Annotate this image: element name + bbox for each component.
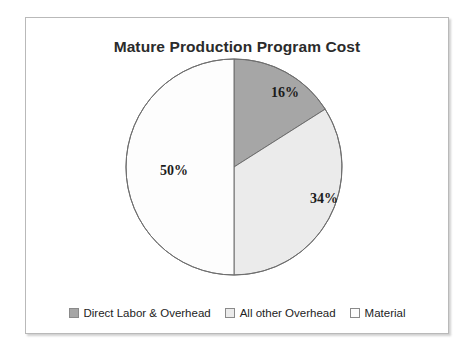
legend-swatch-icon bbox=[69, 308, 79, 318]
legend-swatch-icon bbox=[350, 308, 360, 318]
legend-item-all-other-overhead[interactable]: All other Overhead bbox=[225, 307, 336, 319]
chart-legend: Direct Labor & Overhead All other Overhe… bbox=[26, 307, 448, 319]
legend-label: Material bbox=[365, 307, 406, 319]
legend-item-direct-labor-overhead[interactable]: Direct Labor & Overhead bbox=[69, 307, 211, 319]
pie-label-direct-labor-overhead: 16% bbox=[271, 85, 299, 101]
pie-label-all-other-overhead: 34% bbox=[310, 191, 338, 207]
legend-item-material[interactable]: Material bbox=[350, 307, 406, 319]
legend-label: All other Overhead bbox=[240, 307, 336, 319]
pie-label-material: 50% bbox=[160, 163, 188, 179]
pie-chart: 16% 34% 50% bbox=[125, 58, 343, 276]
pie-svg bbox=[125, 58, 343, 276]
chart-title: Mature Production Program Cost bbox=[26, 38, 448, 56]
legend-swatch-icon bbox=[225, 308, 235, 318]
legend-label: Direct Labor & Overhead bbox=[84, 307, 211, 319]
chart-frame: Mature Production Program Cost 16% 34% 5… bbox=[25, 17, 449, 334]
